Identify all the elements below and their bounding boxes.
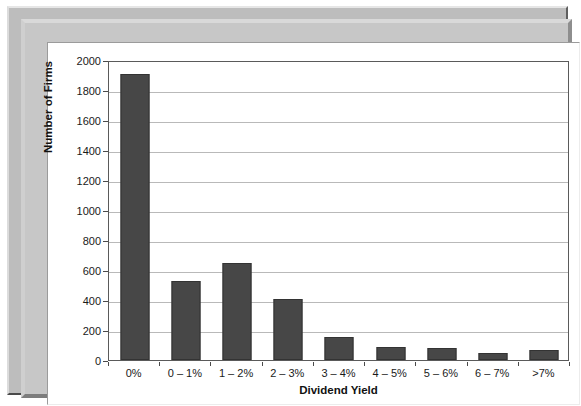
bar[interactable] <box>223 263 252 361</box>
y-tick-mark <box>103 211 108 212</box>
bar-slot <box>365 62 416 360</box>
x-tick-label: 6 – 7% <box>475 367 509 379</box>
bar-slot <box>416 62 467 360</box>
x-tick-label: 0 – 1% <box>168 367 202 379</box>
y-tick-label: 800 <box>49 235 101 247</box>
y-tick-label: 1800 <box>49 85 101 97</box>
x-tick-mark <box>108 362 109 366</box>
bar[interactable] <box>530 350 559 361</box>
bar-slot <box>109 62 160 360</box>
y-tick-label: 2000 <box>49 55 101 67</box>
x-tick-mark <box>467 362 468 366</box>
y-tick-label: 1000 <box>49 205 101 217</box>
x-tick-label: 2 – 3% <box>270 367 304 379</box>
bar-slot <box>263 62 314 360</box>
bar-slot <box>468 62 519 360</box>
x-tick-mark <box>415 362 416 366</box>
y-tick-mark <box>103 151 108 152</box>
bar-slot <box>314 62 365 360</box>
y-tick-mark <box>103 241 108 242</box>
x-tick-mark <box>210 362 211 366</box>
y-tick-label: 1400 <box>49 145 101 157</box>
x-axis-title: Dividend Yield <box>108 384 569 396</box>
x-tick-label: 1 – 2% <box>219 367 253 379</box>
x-tick-mark <box>364 362 365 366</box>
bar-slot <box>519 62 570 360</box>
y-tick-label: 0 <box>49 355 101 367</box>
bar[interactable] <box>120 74 149 361</box>
bars-group <box>109 62 568 360</box>
x-tick-mark <box>159 362 160 366</box>
chart-frame-bevel: Number of Firms 020040060080010001200140… <box>21 19 572 398</box>
x-tick-label: 0% <box>126 367 142 379</box>
bar[interactable] <box>376 347 405 360</box>
y-tick-mark <box>103 91 108 92</box>
y-tick-label: 200 <box>49 325 101 337</box>
bar[interactable] <box>325 337 354 360</box>
y-axis-title: Number of Firms <box>42 61 54 153</box>
x-tick-label: >7% <box>532 367 554 379</box>
plot-area <box>108 61 569 361</box>
y-tick-mark <box>103 301 108 302</box>
y-tick-mark <box>103 181 108 182</box>
x-tick-label: 3 – 4% <box>321 367 355 379</box>
bar[interactable] <box>479 353 508 360</box>
y-tick-label: 1600 <box>49 115 101 127</box>
x-tick-mark <box>313 362 314 366</box>
bar-slot <box>211 62 262 360</box>
bar[interactable] <box>171 281 200 361</box>
chart-frame-outer: Number of Firms 020040060080010001200140… <box>7 6 568 395</box>
bar[interactable] <box>274 299 303 361</box>
y-tick-label: 600 <box>49 265 101 277</box>
y-tick-mark <box>103 61 108 62</box>
x-tick-label: 5 – 6% <box>424 367 458 379</box>
y-tick-mark <box>103 331 108 332</box>
x-tick-mark <box>569 362 570 366</box>
bar-slot <box>160 62 211 360</box>
y-tick-mark <box>103 121 108 122</box>
y-tick-label: 1200 <box>49 175 101 187</box>
bar[interactable] <box>427 348 456 360</box>
y-tick-label: 400 <box>49 295 101 307</box>
x-tick-mark <box>518 362 519 366</box>
x-tick-mark <box>262 362 263 366</box>
bar-chart: Number of Firms 020040060080010001200140… <box>48 43 581 406</box>
x-tick-label: 4 – 5% <box>373 367 407 379</box>
y-tick-mark <box>103 271 108 272</box>
chart-card: Number of Firms 020040060080010001200140… <box>47 42 580 405</box>
